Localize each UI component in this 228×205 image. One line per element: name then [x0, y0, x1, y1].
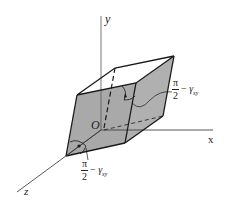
- angle-numerator: π: [82, 159, 87, 169]
- angle-dot-bottom: [77, 144, 80, 147]
- gamma-subscript: xy: [102, 171, 107, 177]
- angle-denominator: 2: [82, 172, 87, 182]
- minus-sign: −: [181, 83, 187, 94]
- z-axis-label: z: [24, 186, 28, 197]
- angle-numerator: π: [173, 78, 178, 88]
- origin-label: O: [91, 119, 100, 131]
- angle-label-right: π 2 − γxy: [172, 78, 198, 101]
- y-axis-label: y: [105, 13, 110, 25]
- angle-denominator: 2: [173, 91, 178, 101]
- x-axis-label: x: [208, 134, 214, 145]
- gamma-subscript: xy: [193, 90, 198, 96]
- angle-label-bottom: π 2 − γxy: [81, 159, 107, 182]
- minus-sign: −: [90, 164, 96, 175]
- sheared-element-diagram: [0, 0, 228, 205]
